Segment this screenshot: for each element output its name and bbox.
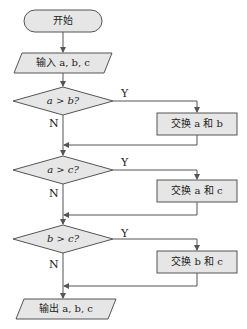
process-label-1: 交换 a 和 b	[157, 118, 237, 130]
decision-label-1: a > b?	[13, 95, 113, 107]
yes-label-1: Y	[121, 88, 128, 100]
decision-label-2: a > c?	[13, 164, 113, 176]
no-label-1: N	[49, 118, 59, 130]
process-label-2: 交换 a 和 c	[157, 185, 237, 197]
yes-label-3: Y	[121, 228, 128, 240]
decision-label-3: b > c?	[13, 233, 113, 245]
no-label-3: N	[49, 259, 59, 271]
yes-label-2: Y	[121, 157, 128, 169]
input-label: 输入 a, b, c	[14, 57, 112, 69]
output-label: 输出 a, b, c	[16, 303, 116, 315]
process-label-3: 交换 b 和 c	[157, 256, 237, 268]
no-label-2: N	[49, 188, 59, 200]
start-label: 开始	[24, 15, 102, 27]
